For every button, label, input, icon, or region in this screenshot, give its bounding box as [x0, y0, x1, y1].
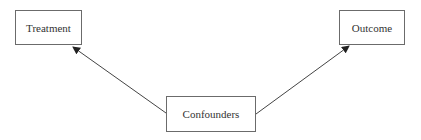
node-treatment-label: Treatment — [26, 22, 71, 34]
node-treatment: Treatment — [15, 10, 82, 45]
edge-confounders-to-treatment — [73, 47, 166, 113]
node-confounders-label: Confounders — [183, 108, 240, 120]
node-outcome: Outcome — [339, 10, 405, 45]
node-confounders: Confounders — [166, 96, 256, 132]
edge-confounders-to-outcome — [256, 46, 349, 114]
causal-diagram: Treatment Outcome Confounders — [0, 0, 421, 140]
node-outcome-label: Outcome — [352, 22, 392, 34]
